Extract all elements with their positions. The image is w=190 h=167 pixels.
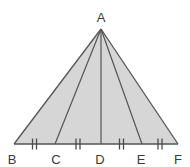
geometry-canvas: A B C D E F [0, 0, 190, 167]
vertex-label-C: C [51, 152, 60, 167]
vertex-label-F: F [174, 152, 182, 167]
geometry-figure: A B C D E F [0, 0, 190, 167]
vertex-label-A: A [97, 10, 106, 25]
vertex-label-E: E [137, 152, 146, 167]
vertex-label-D: D [95, 152, 104, 167]
triangle-interior-fill [14, 29, 178, 144]
vertex-label-B: B [8, 152, 17, 167]
